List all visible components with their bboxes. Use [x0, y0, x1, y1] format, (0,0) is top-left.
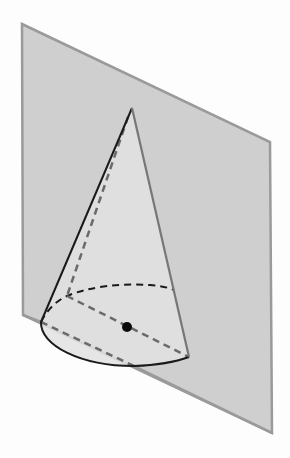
base-center-dot [122, 322, 132, 332]
cone-plane-diagram [0, 0, 290, 458]
